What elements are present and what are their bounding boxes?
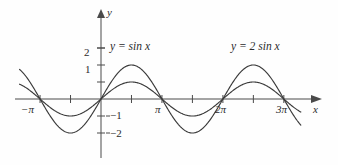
curve-label-two-sin-text: y = 2 sin x bbox=[231, 40, 280, 52]
curve-label-two-sin: y = 2 sin x bbox=[231, 41, 280, 53]
curve-label-sin-text: y = sin x bbox=[110, 40, 150, 52]
x-tick-label-neg-pi: −π bbox=[21, 104, 34, 115]
plot-canvas bbox=[0, 0, 338, 165]
y-tick-label-neg2: −2 bbox=[110, 128, 122, 139]
x-axis-label: x bbox=[313, 104, 318, 115]
x-tick-label-3pi: 3π bbox=[276, 104, 287, 115]
curve-label-sin: y = sin x bbox=[110, 41, 150, 53]
y-tick-label-2: 2 bbox=[84, 47, 90, 58]
y-axis-label: y bbox=[107, 7, 112, 18]
y-tick-label-neg1: −1 bbox=[110, 110, 122, 121]
x-tick-label-pi: π bbox=[155, 104, 161, 115]
y-tick-label-1: 1 bbox=[85, 64, 91, 75]
x-axis-arrowhead bbox=[311, 95, 322, 103]
y-axis-arrowhead bbox=[97, 9, 105, 18]
x-tick-label-2pi: 2π bbox=[215, 104, 226, 115]
sine-graph-figure: y x 2 1 −1 −2 −π π 2π 3π y = sin x y = 2… bbox=[0, 0, 338, 165]
